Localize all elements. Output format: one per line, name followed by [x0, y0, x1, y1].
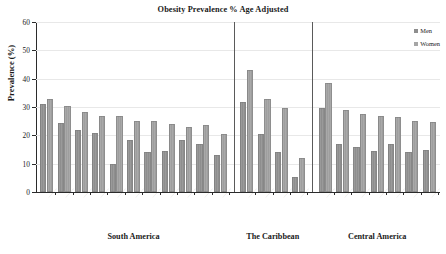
bar-women	[203, 125, 209, 192]
x-tick-mark	[307, 192, 308, 195]
bar-men	[162, 151, 168, 192]
legend-label: Women	[420, 40, 440, 47]
bar-men	[405, 152, 411, 192]
legend-item-men: Men	[414, 27, 440, 34]
bar-men	[196, 144, 202, 192]
bar-women	[247, 70, 253, 192]
gridline	[36, 107, 440, 108]
bar-men	[371, 151, 377, 192]
bar-men	[275, 152, 281, 192]
bar-men	[92, 133, 98, 192]
bar-women	[395, 117, 401, 192]
y-tick-label: 0	[10, 188, 30, 197]
bar-men	[388, 144, 394, 192]
x-tick-mark	[369, 192, 370, 195]
x-tick-mark	[212, 192, 213, 195]
x-tick-mark	[73, 192, 74, 195]
y-axis-label: Prevalence (%)	[6, 18, 16, 128]
legend-item-women: Women	[414, 40, 440, 47]
bar-women	[325, 83, 331, 192]
bar-women	[282, 108, 288, 192]
bar-men	[353, 147, 359, 192]
legend-swatch-men	[414, 29, 418, 33]
gridline	[36, 79, 440, 80]
y-tick-label: 10	[10, 159, 30, 168]
bar-men	[58, 123, 64, 192]
bar-men	[240, 102, 246, 192]
bar-women	[221, 134, 227, 192]
bar-men	[214, 155, 220, 192]
page-title: Obesity Prevalence % Age Adjusted	[0, 5, 446, 14]
y-tick-label: 40	[10, 74, 30, 83]
legend-swatch-women	[414, 42, 418, 46]
bar-women	[264, 99, 270, 193]
x-tick-mark	[160, 192, 161, 195]
y-tick-label: 60	[10, 18, 30, 27]
y-tick-label: 20	[10, 131, 30, 140]
y-tick-label: 30	[10, 103, 30, 112]
legend-label: Men	[420, 27, 432, 34]
group-label-central-america: Central America	[286, 232, 446, 241]
x-tick-mark	[125, 192, 126, 195]
gridline	[36, 22, 440, 23]
bar-women	[134, 121, 140, 192]
bar-men	[336, 144, 342, 192]
bar-women	[99, 116, 105, 193]
y-tick-label: 50	[10, 46, 30, 55]
legend: MenWomen	[414, 27, 440, 53]
bar-women	[430, 122, 436, 192]
bar-men	[292, 177, 298, 192]
x-tick-mark	[421, 192, 422, 195]
bar-women	[378, 116, 384, 192]
bar-women	[360, 114, 366, 192]
bar-men	[110, 164, 116, 192]
bar-men	[423, 150, 429, 192]
bar-women	[186, 127, 192, 192]
group-separator	[312, 22, 313, 192]
bar-women	[343, 110, 349, 192]
bar-women	[169, 124, 175, 192]
x-tick-mark	[334, 192, 335, 195]
gridline	[36, 50, 440, 51]
bar-women	[412, 121, 418, 192]
bar-men	[40, 104, 46, 192]
bar-women	[116, 116, 122, 192]
group-separator	[234, 22, 235, 192]
bar-men	[179, 140, 185, 192]
bar-women	[151, 121, 157, 192]
bar-men	[127, 140, 133, 192]
plot-area	[36, 22, 440, 192]
bar-women	[64, 106, 70, 192]
bar-men	[75, 130, 81, 192]
x-tick-mark	[107, 192, 108, 195]
bar-women	[82, 112, 88, 192]
chart-figure: Obesity Prevalence % Age Adjusted Preval…	[0, 0, 446, 254]
bar-women	[299, 158, 305, 192]
y-tick-mark	[32, 192, 36, 193]
x-tick-mark	[273, 192, 274, 195]
bar-men	[258, 134, 264, 192]
bar-men	[319, 108, 325, 192]
bar-women	[47, 99, 53, 193]
bar-men	[144, 152, 150, 192]
